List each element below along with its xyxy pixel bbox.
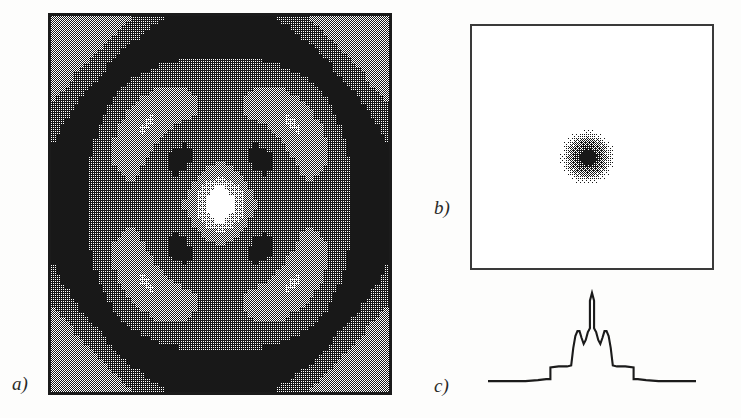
density-map-canvas (51, 16, 389, 392)
panel-label-b: b) (434, 198, 450, 217)
panel-label-c: c) (434, 376, 449, 395)
panel-a-plot-area (51, 16, 389, 392)
panel-c-line-profile (470, 283, 714, 401)
panel-label-a: a) (12, 374, 28, 393)
profile-curve (488, 293, 696, 381)
panel-b-fourier-square (470, 24, 714, 270)
profile-svg (470, 283, 714, 401)
figure-root: a) b) c) (0, 0, 741, 418)
panel-b-plot-area (472, 26, 712, 268)
panel-a-density-map (48, 13, 392, 395)
central-blob-canvas (472, 26, 712, 268)
